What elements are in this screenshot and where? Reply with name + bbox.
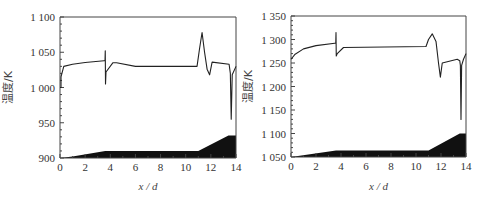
- temperature-line: [60, 33, 236, 120]
- right-temperature-plot: 1 0501 1001 1501 2001 2501 3001 35002468…: [241, 10, 472, 192]
- y-tick-label: 1 050: [30, 46, 55, 58]
- x-tick-label: 10: [411, 160, 423, 172]
- x-tick-label: 0: [288, 160, 294, 172]
- plot-frame: [291, 16, 466, 157]
- x-tick-label: 4: [338, 160, 344, 172]
- x-tick-label: 12: [436, 160, 447, 172]
- x-tick-label: 14: [231, 161, 243, 173]
- y-tick-label: 950: [39, 117, 56, 129]
- x-tick-label: 12: [205, 161, 216, 173]
- geometry-profile-area: [60, 135, 236, 158]
- y-tick-label: 1 100: [30, 11, 55, 23]
- x-tick-label: 14: [461, 160, 473, 172]
- y-tick-label: 1 200: [261, 81, 286, 93]
- plot-frame: [60, 17, 236, 158]
- x-axis-title: x / d: [138, 180, 158, 192]
- x-tick-label: 2: [82, 161, 88, 173]
- y-tick-label: 900: [39, 152, 56, 164]
- y-tick-label: 1 350: [261, 10, 286, 22]
- y-tick-label: 1 050: [261, 151, 286, 163]
- x-tick-label: 4: [108, 161, 114, 173]
- y-tick-label: 1 250: [261, 57, 286, 69]
- x-tick-label: 6: [133, 161, 139, 173]
- y-axis-title: 温度/K: [1, 70, 15, 104]
- y-tick-label: 1 000: [30, 82, 55, 94]
- x-tick-label: 8: [158, 161, 164, 173]
- x-tick-label: 0: [57, 161, 63, 173]
- x-tick-label: 6: [363, 160, 369, 172]
- x-tick-label: 8: [388, 160, 394, 172]
- temperature-profile-charts: 9009501 0001 0501 10002468101214x / d温度/…: [0, 0, 480, 204]
- geometry-profile-area: [291, 134, 466, 158]
- y-tick-label: 1 150: [261, 104, 286, 116]
- temperature-line: [291, 32, 466, 119]
- left-temperature-plot: 9009501 0001 0501 10002468101214x / d温度/…: [1, 11, 242, 192]
- x-tick-label: 2: [313, 160, 319, 172]
- x-axis-title: x / d: [368, 180, 388, 192]
- y-axis-title: 温度/K: [241, 69, 255, 103]
- y-tick-label: 1 300: [261, 34, 286, 46]
- y-tick-label: 1 100: [261, 128, 286, 140]
- x-tick-label: 10: [180, 161, 192, 173]
